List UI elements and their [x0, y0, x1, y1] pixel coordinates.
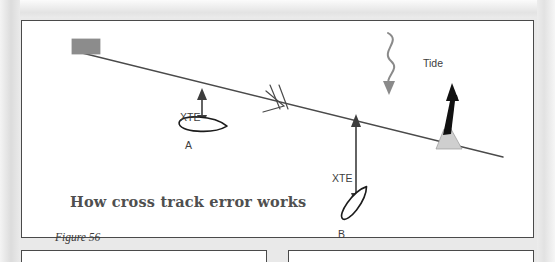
navigation-beacon — [436, 83, 462, 149]
figure-panel: Tide XTE XTE A B How cross track error w… — [21, 20, 534, 238]
beacon-post-icon — [443, 101, 455, 135]
xte-label-a: XTE — [180, 111, 200, 123]
vessel-a-label: A — [185, 139, 192, 151]
page-margin-top — [0, 0, 555, 18]
vessel-b-hull — [338, 183, 372, 222]
figure-caption: Figure 56 — [55, 231, 100, 243]
continuation-box-left — [21, 250, 267, 262]
wavy-tide-arrow — [383, 33, 395, 95]
vessel-b-label: B — [338, 228, 345, 240]
waypoint-rectangle — [72, 39, 100, 54]
beacon-collar-icon — [448, 95, 458, 101]
page-canvas: Tide XTE XTE A B How cross track error w… — [0, 0, 555, 262]
continuation-box-right — [288, 250, 534, 262]
xte-label-b: XTE — [332, 172, 352, 184]
page-margin-left — [0, 0, 20, 262]
tide-label: Tide — [423, 57, 443, 69]
figure-title: How cross track error works — [70, 193, 306, 210]
page-margin-right — [537, 0, 555, 262]
